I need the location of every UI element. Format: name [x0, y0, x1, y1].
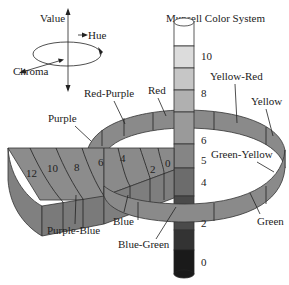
value-segment-5	[174, 144, 194, 168]
munsell-diagram: Value Hue Chroma Munsell Color System	[0, 0, 289, 285]
value-segment-2	[174, 230, 194, 250]
value-8: 8	[201, 87, 207, 99]
value-column	[174, 18, 194, 278]
hue-label-green-yellow: Green-Yellow	[211, 148, 273, 160]
hue-label-yellow: Yellow	[251, 95, 282, 107]
hue-label-red: Red	[148, 84, 166, 96]
chroma-axis-label: Chroma	[13, 65, 49, 77]
hue-label-blue: Blue	[113, 215, 134, 227]
chroma-8: 8	[74, 161, 80, 173]
chroma-4: 4	[120, 152, 126, 164]
value-10: 10	[201, 50, 213, 62]
leader-purple	[75, 126, 91, 141]
hue-ellipse	[33, 42, 101, 66]
leader-green-yellow	[257, 162, 274, 172]
value-segment-4	[174, 168, 194, 196]
hue-arrow-icon	[98, 47, 103, 55]
chroma-12: 12	[26, 167, 37, 179]
column-top-cap	[174, 18, 194, 26]
hue-label-green: Green	[257, 215, 284, 227]
value-2: 2	[201, 217, 207, 229]
value-segment-8	[174, 68, 194, 90]
chroma-10: 10	[47, 162, 59, 174]
value-4: 4	[201, 176, 207, 188]
value-segment-9	[174, 46, 194, 68]
leader-red-purple	[114, 101, 125, 124]
chroma-arrow-back-icon	[58, 59, 64, 64]
hue-axis-label: Hue	[88, 29, 106, 41]
value-6: 6	[201, 134, 207, 146]
hue-label-red-purple: Red-Purple	[84, 87, 134, 99]
hue-label-purple: Purple	[48, 112, 77, 124]
hue-label-yellow-red: Yellow-Red	[210, 70, 263, 82]
axes-legend: Value Hue Chroma	[13, 8, 106, 92]
value-arrow-up-icon	[66, 8, 71, 15]
chroma-2: 2	[150, 163, 156, 175]
value-segment-7	[174, 90, 194, 112]
hue-label-purple-blue: Purple-Blue	[47, 224, 100, 236]
hue-label-blue-green: Blue-Green	[118, 238, 170, 250]
value-0: 0	[201, 256, 207, 268]
value-axis-label: Value	[40, 12, 65, 24]
value-5: 5	[201, 154, 207, 166]
chroma-0: 0	[165, 157, 171, 169]
value-arrow-down-icon	[66, 85, 71, 92]
chroma-6: 6	[98, 156, 104, 168]
value-segment-6	[174, 112, 194, 144]
column-bottom-cap	[174, 270, 194, 278]
